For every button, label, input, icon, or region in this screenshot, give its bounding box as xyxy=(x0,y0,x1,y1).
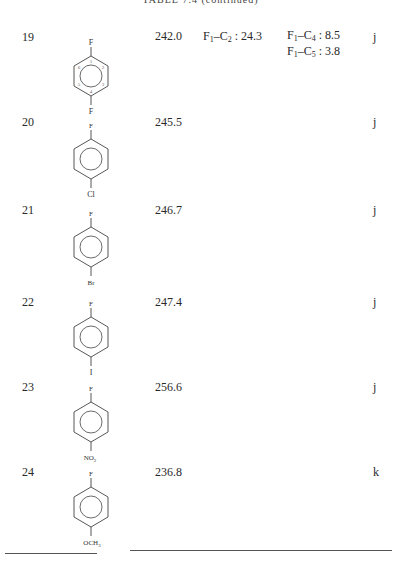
svg-text:2: 2 xyxy=(102,65,105,70)
table-caption: TABLE 7.4 (continued) xyxy=(0,0,401,5)
svg-text:6: 6 xyxy=(78,65,81,70)
svg-text:F: F xyxy=(89,38,94,47)
table-bottom-rule-left xyxy=(5,553,97,554)
svg-text:4: 4 xyxy=(90,89,93,94)
chemical-shift: 247.4 xyxy=(155,295,182,310)
svg-text:Cl: Cl xyxy=(87,190,95,199)
reference-letter: k xyxy=(373,465,379,480)
reference-letter: j xyxy=(373,115,376,130)
chemical-shift: 242.0 xyxy=(155,29,182,44)
svg-text:F: F xyxy=(89,210,93,218)
benzene-ring-icon: F NO2 xyxy=(66,382,116,464)
reference-letter: j xyxy=(373,380,376,395)
svg-text:F: F xyxy=(89,470,93,478)
structure-p-fluoroanisole: F OCH3 xyxy=(66,467,116,549)
structure-p-chlorofluorobenzene: F Cl xyxy=(66,119,116,199)
chemical-shift: 236.8 xyxy=(155,465,182,480)
benzene-ring-icon: F Cl xyxy=(66,119,116,199)
benzene-ring-icon: F I xyxy=(66,297,116,377)
svg-text:OCH3: OCH3 xyxy=(83,539,101,548)
svg-text:Br: Br xyxy=(88,279,96,287)
compound-number: 22 xyxy=(22,295,34,310)
compound-number: 24 xyxy=(22,465,34,480)
compound-number: 19 xyxy=(22,30,34,45)
svg-text:F: F xyxy=(89,300,93,308)
chemical-shift: 245.5 xyxy=(155,115,182,130)
coupling-f1-c5: F1–C5 : 3.8 xyxy=(287,45,340,61)
svg-text:1: 1 xyxy=(90,59,93,64)
chemical-shift: 246.7 xyxy=(155,203,182,218)
svg-text:F: F xyxy=(89,107,94,116)
benzene-ring-icon: F Br xyxy=(66,207,116,287)
chemical-shift: 256.6 xyxy=(155,380,182,395)
coupling-f1-c2: F1–C2 : 24.3 xyxy=(203,29,262,44)
svg-text:3: 3 xyxy=(102,82,105,87)
coupling-f1-c4: F1–C4 : 8.5 xyxy=(287,29,340,45)
svg-text:F: F xyxy=(89,122,93,130)
benzene-ring-icon: F F 1 2 3 4 5 6 xyxy=(66,34,116,116)
svg-text:5: 5 xyxy=(78,82,81,87)
structure-p-fluoroiodobenzene: F I xyxy=(66,297,116,377)
reference-letter: j xyxy=(373,295,376,310)
structure-p-fluoronitrobenzene: F NO2 xyxy=(66,382,116,464)
compound-number: 23 xyxy=(22,380,34,395)
compound-number: 21 xyxy=(22,203,34,218)
reference-letter: j xyxy=(373,30,376,45)
structure-p-bromofluorobenzene: F Br xyxy=(66,207,116,287)
structure-p-difluorobenzene: F F 1 2 3 4 5 6 xyxy=(66,34,116,116)
compound-number: 20 xyxy=(22,115,34,130)
svg-text:NO2: NO2 xyxy=(84,454,97,463)
svg-text:I: I xyxy=(90,368,93,377)
reference-letter: j xyxy=(373,203,376,218)
svg-text:F: F xyxy=(89,385,93,393)
coupling-list: F1–C4 : 8.5 F1–C5 : 3.8 xyxy=(287,29,340,61)
benzene-ring-icon: F OCH3 xyxy=(66,467,116,549)
table-bottom-rule-right xyxy=(130,550,392,551)
